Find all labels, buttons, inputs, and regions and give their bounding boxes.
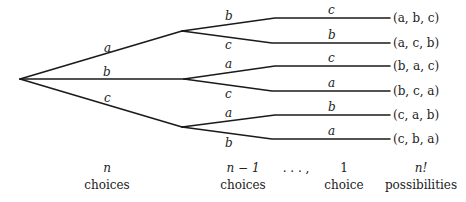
edge-c-b — [182, 127, 390, 139]
caption-level1-label: choices — [84, 178, 130, 192]
label-level3-acb: b — [328, 28, 336, 42]
edge-root-a — [20, 31, 182, 79]
edge-a-b — [182, 18, 390, 31]
caption-level1-count: n — [103, 161, 111, 175]
level2-edges — [182, 18, 390, 139]
leaf-permutation-acb: (a, c, b) — [393, 36, 439, 50]
leaf-permutation-abc: (a, b, c) — [393, 11, 439, 25]
leaf-permutation-bca: (b, c, a) — [393, 84, 439, 98]
caption-level3-label: choice — [324, 178, 363, 192]
edge-root-c — [20, 79, 182, 127]
permutation-tree-diagram: a b c b c a c a b c b c a b a (a, b, c) … — [0, 0, 466, 202]
caption-level2-label: choices — [220, 178, 266, 192]
label-level2-a-c: c — [225, 38, 232, 52]
caption-level2-count: n − 1 — [226, 161, 259, 175]
edge-a-c — [182, 31, 390, 43]
label-level2-b-a: a — [225, 57, 232, 71]
label-level1-b: b — [103, 65, 111, 79]
leaf-permutation-cab: (c, a, b) — [393, 108, 439, 122]
leaf-permutation-cba: (c, b, a) — [393, 132, 439, 146]
label-level3-bac: c — [328, 51, 335, 65]
label-level2-c-b: b — [225, 136, 233, 150]
leaf-permutation-bac: (b, a, c) — [393, 59, 439, 73]
label-level2-a-b: b — [225, 9, 233, 23]
edge-b-a — [184, 66, 390, 79]
label-level1-c: c — [104, 91, 111, 105]
caption-total-count: n! — [415, 161, 428, 175]
label-level3-cab: b — [328, 100, 336, 114]
label-level2-b-c: c — [225, 87, 232, 101]
label-level2-c-a: a — [225, 106, 232, 120]
label-level1-a: a — [104, 41, 111, 55]
edge-b-c — [184, 79, 390, 91]
caption-ellipsis: . . . , — [283, 161, 310, 175]
level1-edges — [20, 31, 184, 127]
label-level3-cba: a — [328, 124, 335, 138]
caption-level3-count: 1 — [340, 161, 348, 175]
label-level3-bca: a — [328, 76, 335, 90]
label-level3-abc: c — [328, 3, 335, 17]
edge-c-a — [182, 115, 390, 127]
caption-total-label: possibilities — [385, 178, 457, 192]
